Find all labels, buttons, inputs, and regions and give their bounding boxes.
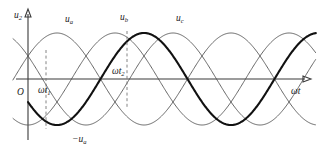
curve-label-ub: ub [120, 12, 129, 23]
y-axis-label: u2 [14, 10, 23, 21]
curve-label-ua: ua [65, 14, 74, 25]
reference-lines [46, 31, 127, 129]
three-phase-waveform-chart: u2 ωt O ua ub uc ωt1 ωt2 −ua [0, 0, 324, 148]
omega-t1-label: ωt1 [38, 85, 51, 96]
origin-label: O [17, 87, 24, 97]
waveform-figure: u2 ωt O ua ub uc ωt1 ωt2 −ua [0, 0, 324, 148]
x-axis-label: ωt [291, 86, 301, 96]
curve-label-uc: uc [176, 13, 184, 24]
bold-curve-label-minus-ua: −ua [72, 134, 87, 145]
omega-t2-label: ωt2 [112, 66, 125, 77]
axes-group [16, 9, 311, 140]
